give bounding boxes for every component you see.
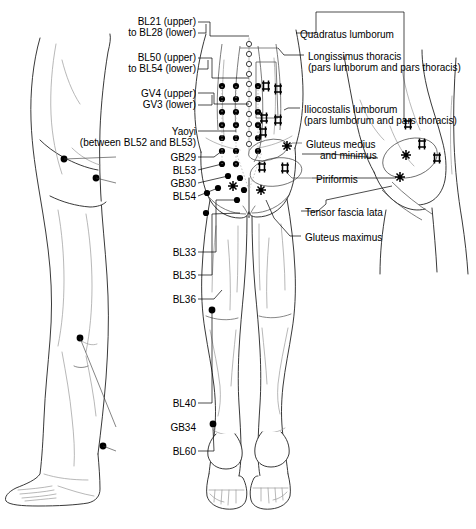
label-gluteus-medius-minimus-line1: Gluteus medius [306, 139, 377, 150]
label-gluteus-medius-minimus: Gluteus medius and minimus [306, 139, 377, 161]
label-gv4-gv3-line2: GV3 (lower) [112, 99, 196, 110]
label-gluteus-medius-minimus-line2: and minimus [306, 150, 377, 161]
label-longissimus-thoracis-line1: Longissimus thoracis [308, 51, 461, 62]
label-bl21-bl28: BL21 (upper) to BL28 (lower) [112, 16, 196, 38]
lateral-view-left [5, 34, 110, 506]
label-iliocostalis-lumborum-line1: Iliocostalis lumborum [304, 104, 457, 115]
trigger-mark-asterisk [228, 181, 238, 191]
label-gb34: GB34 [130, 422, 196, 433]
label-bl36: BL36 [130, 294, 196, 305]
label-longissimus-thoracis: Longissimus thoracis (pars lumborum and … [308, 51, 461, 73]
label-yaoyi-sub: (between BL52 and BL53) [60, 137, 196, 148]
label-yaoyi-line1: Yaoyi [60, 126, 196, 137]
trigger-mark-asterisk [401, 150, 411, 160]
label-bl54: BL54 [130, 191, 196, 202]
label-piriformis: Piriformis [316, 174, 358, 185]
label-bl35: BL35 [130, 270, 196, 281]
label-bl21-bl28-line2: to BL28 (lower) [112, 27, 196, 38]
label-gv4-gv3: GV4 (upper) GV3 (lower) [112, 88, 196, 110]
trigger-mark-hash [274, 84, 282, 95]
label-bl60: BL60 [130, 446, 196, 457]
label-longissimus-thoracis-sub: (pars lumborum and pars thoracis) [308, 62, 461, 73]
label-gv4-gv3-line1: GV4 (upper) [112, 88, 196, 99]
label-tensor-fascia-lata: Tensor fascia lata [305, 207, 383, 218]
label-bl50-bl54-line2: to BL54 (lower) [112, 63, 196, 74]
trigger-mark-asterisk [395, 172, 405, 182]
trigger-mark-hash [259, 127, 267, 138]
diagram-canvas [0, 0, 476, 529]
trigger-mark-asterisk [256, 185, 266, 195]
label-iliocostalis-lumborum: Iliocostalis lumborum (pars lumborum and… [304, 104, 457, 126]
label-gb30: GB30 [130, 178, 196, 189]
trigger-mark-hash [258, 162, 266, 173]
trigger-mark-asterisk [282, 141, 292, 151]
label-iliocostalis-lumborum-sub: (pars lumborum and pars thoracis) [304, 115, 457, 126]
label-gb29: GB29 [130, 152, 196, 163]
label-bl53: BL53 [130, 165, 196, 176]
label-quadratus-lumborum: Quadratus lumborum [300, 29, 394, 40]
label-yaoyi: Yaoyi (between BL52 and BL53) [60, 126, 196, 148]
label-bl50-bl54-line1: BL50 (upper) [112, 52, 196, 63]
label-gluteus-maximus: Gluteus maximus [305, 232, 382, 243]
label-bl50-bl54: BL50 (upper) to BL54 (lower) [112, 52, 196, 74]
label-bl40: BL40 [130, 398, 196, 409]
label-bl33: BL33 [130, 247, 196, 258]
trigger-mark-hash [262, 81, 270, 92]
label-bl21-bl28-line1: BL21 (upper) [112, 16, 196, 27]
acupoint-trigger-point-diagram: BL21 (upper) to BL28 (lower) BL50 (upper… [0, 0, 476, 529]
